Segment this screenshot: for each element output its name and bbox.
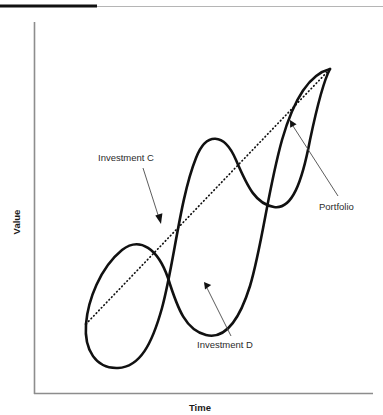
series-investment-c-curve: [86, 69, 330, 336]
annotation-portfolio-leader: [293, 126, 338, 196]
investment-portfolio-chart: Value Time Investment C Investment D Por…: [0, 0, 383, 415]
series-investment-d-curve: [86, 69, 330, 368]
annotation-investment-d: Investment D: [197, 282, 253, 350]
annotation-investment-c-label: Investment C: [98, 152, 154, 163]
y-axis-label: Value: [11, 210, 22, 235]
annotation-investment-d-label: Investment D: [197, 339, 253, 350]
annotation-investment-c-arrowhead: [155, 213, 162, 224]
x-axis-label: Time: [189, 402, 211, 413]
annotation-investment-d-leader: [207, 288, 231, 336]
annotation-portfolio-label: Portfolio: [319, 201, 354, 212]
annotation-investment-c-leader: [143, 168, 159, 218]
figure-page: Value Time Investment C Investment D Por…: [0, 0, 383, 415]
annotation-investment-c: Investment C: [98, 152, 162, 224]
annotation-portfolio: Portfolio: [290, 120, 354, 212]
